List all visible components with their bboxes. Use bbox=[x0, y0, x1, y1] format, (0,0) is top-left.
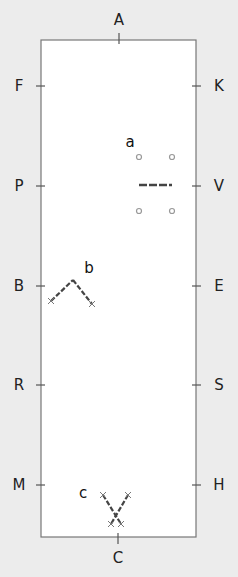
arena-graphic bbox=[0, 0, 238, 577]
marker-k: K bbox=[214, 79, 224, 94]
marker-m: M bbox=[13, 478, 26, 493]
exercise-label-b: b bbox=[84, 261, 94, 276]
marker-h: H bbox=[213, 478, 224, 493]
marker-e: E bbox=[214, 279, 223, 294]
marker-s: S bbox=[214, 378, 224, 393]
marker-b: B bbox=[14, 279, 24, 294]
arena-diagram: A F K P V B E R S M H C a b c bbox=[0, 0, 238, 577]
marker-a: A bbox=[114, 13, 124, 28]
exercise-label-a: a bbox=[125, 135, 134, 150]
marker-f: F bbox=[15, 79, 24, 94]
marker-r: R bbox=[14, 378, 24, 393]
marker-v: V bbox=[214, 179, 224, 194]
exercise-label-c: c bbox=[79, 486, 87, 501]
marker-p: P bbox=[14, 179, 23, 194]
marker-c: C bbox=[113, 551, 123, 566]
